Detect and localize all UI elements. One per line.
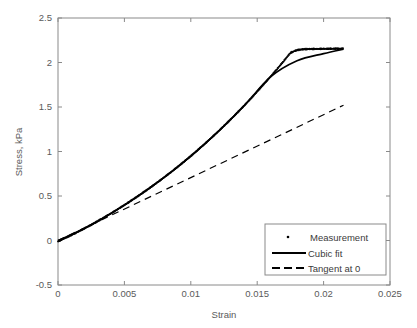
legend-label-tangent: Tangent at 0 (308, 263, 360, 274)
measurement-point (342, 47, 344, 49)
y-tick-label: 1.5 (39, 101, 52, 112)
x-tick-label: 0.01 (182, 288, 201, 299)
measurement-point (242, 106, 244, 108)
legend-label-cubic-fit: Cubic fit (308, 248, 343, 259)
stress-strain-chart: -0.500.511.522.5 00.0050.010.0150.020.02… (0, 0, 417, 328)
y-tick-label: 2.5 (39, 12, 52, 23)
y-tick-label: 2 (47, 57, 52, 68)
y-tick-label: 1 (47, 146, 52, 157)
chart-background (0, 0, 417, 328)
dot-marker-icon (287, 236, 290, 239)
y-tick-label: -0.5 (36, 279, 52, 290)
figure-canvas: -0.500.511.522.5 00.0050.010.0150.020.02… (0, 0, 417, 328)
x-axis-title: Strain (212, 309, 237, 320)
x-tick-label: 0.025 (378, 288, 402, 299)
chart-legend[interactable]: Measurement Cubic fit Tangent at 0 (265, 224, 386, 275)
legend-label-measurement: Measurement (310, 232, 368, 243)
y-axis-title: Stress, kPa (13, 127, 24, 176)
x-tick-label: 0.015 (245, 288, 269, 299)
y-tick-label: 0 (47, 235, 52, 246)
x-tick-label: 0.02 (314, 288, 333, 299)
y-tick-label: 0.5 (39, 190, 52, 201)
measurement-point (249, 99, 251, 101)
x-tick-label: 0.005 (113, 288, 137, 299)
x-tick-label: 0 (55, 288, 60, 299)
